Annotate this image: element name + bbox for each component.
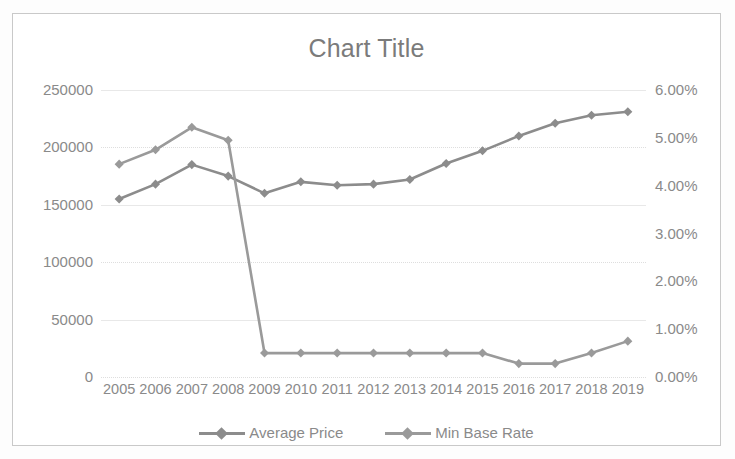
x-tick-label: 2005 — [103, 382, 135, 397]
data-point-marker — [405, 349, 414, 358]
x-tick-label: 2010 — [285, 382, 317, 397]
x-tick-label: 2009 — [248, 382, 280, 397]
data-point-marker — [260, 349, 269, 358]
legend-marker-icon — [385, 427, 431, 439]
x-axis: 2005200620072008200920102011201220132014… — [101, 382, 646, 406]
x-tick-label: 2008 — [212, 382, 244, 397]
series-2 — [115, 123, 633, 368]
data-point-marker — [333, 349, 342, 358]
data-point-marker — [442, 159, 451, 168]
y-left-tick-label: 200000 — [43, 139, 93, 154]
x-tick-label: 2006 — [139, 382, 171, 397]
y-left-tick-label: 0 — [85, 369, 93, 384]
legend-label: Average Price — [249, 424, 343, 441]
y-right-tick-label: 3.00% — [655, 226, 698, 241]
data-point-marker — [551, 359, 560, 368]
y-axis-right: 0.00%1.00%2.00%3.00%4.00%5.00%6.00% — [655, 90, 725, 377]
data-point-marker — [369, 349, 378, 358]
data-point-marker — [623, 107, 632, 116]
series-line — [119, 127, 628, 363]
y-right-tick-label: 5.00% — [655, 130, 698, 145]
y-left-tick-label: 50000 — [51, 312, 93, 327]
data-point-marker — [369, 180, 378, 189]
data-point-marker — [333, 181, 342, 190]
y-axis-left: 050000100000150000200000250000 — [29, 90, 93, 377]
data-point-marker — [405, 175, 414, 184]
gridline — [101, 377, 646, 379]
data-point-marker — [587, 111, 596, 120]
data-point-marker — [551, 119, 560, 128]
legend-item-2[interactable]: Min Base Rate — [385, 424, 533, 441]
y-left-tick-label: 150000 — [43, 197, 93, 212]
data-point-marker — [478, 146, 487, 155]
data-point-marker — [478, 349, 487, 358]
y-left-tick-label: 100000 — [43, 254, 93, 269]
x-tick-label: 2007 — [176, 382, 208, 397]
x-tick-label: 2015 — [466, 382, 498, 397]
legend-marker-icon — [199, 427, 245, 439]
data-point-marker — [115, 195, 124, 204]
chart-title: Chart Title — [13, 34, 720, 63]
plot-area — [101, 90, 646, 377]
data-point-marker — [514, 131, 523, 140]
y-right-tick-label: 2.00% — [655, 273, 698, 288]
chart-legend: Average PriceMin Base Rate — [13, 424, 720, 441]
y-right-tick-label: 6.00% — [655, 82, 698, 97]
x-tick-label: 2013 — [394, 382, 426, 397]
y-right-tick-label: 4.00% — [655, 178, 698, 193]
series-layer — [101, 90, 646, 377]
y-left-tick-label: 250000 — [43, 82, 93, 97]
data-point-marker — [115, 160, 124, 169]
legend-label: Min Base Rate — [435, 424, 533, 441]
x-tick-label: 2019 — [612, 382, 644, 397]
series-1 — [115, 107, 633, 203]
x-tick-label: 2018 — [575, 382, 607, 397]
data-point-marker — [623, 337, 632, 346]
y-right-tick-label: 0.00% — [655, 369, 698, 384]
x-tick-label: 2011 — [322, 382, 353, 397]
data-point-marker — [514, 359, 523, 368]
data-point-marker — [296, 349, 305, 358]
chart-screenshot: Chart Title 0500001000001500002000002500… — [0, 0, 735, 459]
legend-item-1[interactable]: Average Price — [199, 424, 343, 441]
data-point-marker — [260, 189, 269, 198]
data-point-marker — [587, 349, 596, 358]
x-tick-label: 2014 — [430, 382, 462, 397]
data-point-marker — [442, 349, 451, 358]
y-right-tick-label: 1.00% — [655, 321, 698, 336]
x-tick-label: 2017 — [539, 382, 571, 397]
data-point-marker — [224, 136, 233, 145]
chart-frame: Chart Title 0500001000001500002000002500… — [12, 13, 721, 446]
data-point-marker — [296, 177, 305, 186]
x-tick-label: 2016 — [503, 382, 535, 397]
data-point-marker — [224, 172, 233, 181]
x-tick-label: 2012 — [357, 382, 389, 397]
